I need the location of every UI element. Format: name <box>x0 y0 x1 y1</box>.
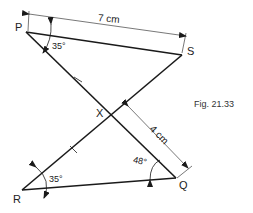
point-label-Q: Q <box>179 180 188 191</box>
point-label-R: R <box>13 194 21 205</box>
angle-arc-R <box>36 167 47 198</box>
segment-RQ <box>22 178 176 190</box>
segment-PS <box>26 32 182 55</box>
extension-line-Q <box>177 166 192 178</box>
extension-line-P <box>28 11 29 31</box>
point-label-S: S <box>187 46 194 57</box>
angle-label-R: 35° <box>49 175 63 184</box>
segment-SR <box>22 55 182 190</box>
figure-caption: Fig. 21.33 <box>194 100 234 109</box>
angle-arc-Q <box>150 160 160 180</box>
geometry-figure: P S X R Q 35° 35° 48° 7 cm 4 cm Fig. 21.… <box>0 0 253 213</box>
point-label-P: P <box>15 22 22 33</box>
point-label-X: X <box>96 108 103 119</box>
segment-PQ <box>26 32 176 178</box>
dimension-label-PS: 7 cm <box>98 13 120 25</box>
angle-label-P: 35° <box>52 42 66 51</box>
